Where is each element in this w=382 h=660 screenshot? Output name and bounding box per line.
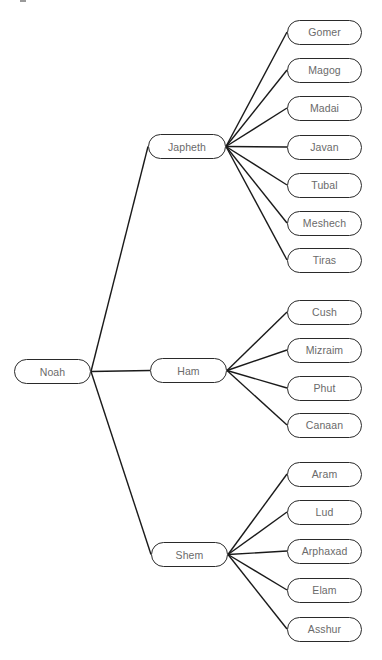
node-phut[interactable]: Phut — [287, 376, 362, 401]
edge-japheth-tubal — [226, 147, 287, 186]
node-label: Phut — [314, 382, 336, 394]
node-label: Gomer — [308, 26, 341, 38]
node-aram[interactable]: Aram — [287, 462, 362, 487]
edge-shem-elam — [228, 555, 287, 591]
node-label: Aram — [312, 468, 338, 480]
node-label: Lud — [316, 506, 334, 518]
edge-japheth-javan — [226, 147, 287, 148]
node-canaan[interactable]: Canaan — [287, 413, 362, 438]
edge-shem-arphaxad — [228, 551, 287, 555]
node-label: Magog — [308, 64, 341, 76]
node-label: Shem — [176, 549, 204, 561]
node-tubal[interactable]: Tubal — [287, 173, 362, 198]
edge-japheth-meshech — [226, 147, 287, 224]
node-label: Noah — [40, 366, 66, 378]
node-ham[interactable]: Ham — [150, 358, 227, 383]
edge-shem-aram — [228, 474, 287, 555]
node-mizraim[interactable]: Mizraim — [287, 338, 362, 363]
edge-noah-shem — [91, 372, 151, 555]
node-elam[interactable]: Elam — [287, 578, 362, 603]
node-label: Arphaxad — [302, 545, 348, 557]
edge-shem-lud — [228, 512, 287, 555]
node-magog[interactable]: Magog — [287, 58, 362, 83]
node-meshech[interactable]: Meshech — [287, 211, 362, 236]
edge-japheth-madai — [226, 108, 287, 147]
family-tree-diagram: NoahJaphethGomerMagogMadaiJavanTubalMesh… — [0, 0, 382, 660]
node-label: Tubal — [311, 179, 337, 191]
node-label: Tiras — [313, 254, 336, 266]
node-gomer[interactable]: Gomer — [287, 20, 362, 45]
node-javan[interactable]: Javan — [287, 135, 362, 160]
node-arphaxad[interactable]: Arphaxad — [287, 539, 362, 564]
node-label: Cush — [312, 306, 337, 318]
edge-shem-asshur — [228, 555, 287, 630]
node-shem[interactable]: Shem — [151, 542, 228, 567]
edge-ham-cush — [227, 312, 287, 371]
edge-noah-ham — [91, 371, 150, 372]
node-label: Javan — [310, 141, 339, 153]
node-label: Ham — [177, 365, 199, 377]
node-japheth[interactable]: Japheth — [148, 134, 226, 159]
node-lud[interactable]: Lud — [287, 500, 362, 525]
node-label: Madai — [310, 102, 339, 114]
node-label: Asshur — [308, 623, 341, 635]
edge-japheth-gomer — [226, 32, 287, 147]
edge-japheth-magog — [226, 70, 287, 147]
node-label: Canaan — [306, 419, 343, 431]
node-tiras[interactable]: Tiras — [287, 248, 362, 273]
node-noah[interactable]: Noah — [14, 359, 91, 384]
edge-ham-mizraim — [227, 350, 287, 371]
node-label: Elam — [312, 584, 336, 596]
node-asshur[interactable]: Asshur — [287, 617, 362, 642]
node-label: Mizraim — [306, 344, 343, 356]
node-label: Meshech — [303, 217, 346, 229]
node-label: Japheth — [168, 141, 206, 153]
node-cush[interactable]: Cush — [287, 300, 362, 325]
node-madai[interactable]: Madai — [287, 96, 362, 121]
edge-japheth-tiras — [226, 147, 287, 261]
edge-noah-japheth — [91, 147, 148, 372]
